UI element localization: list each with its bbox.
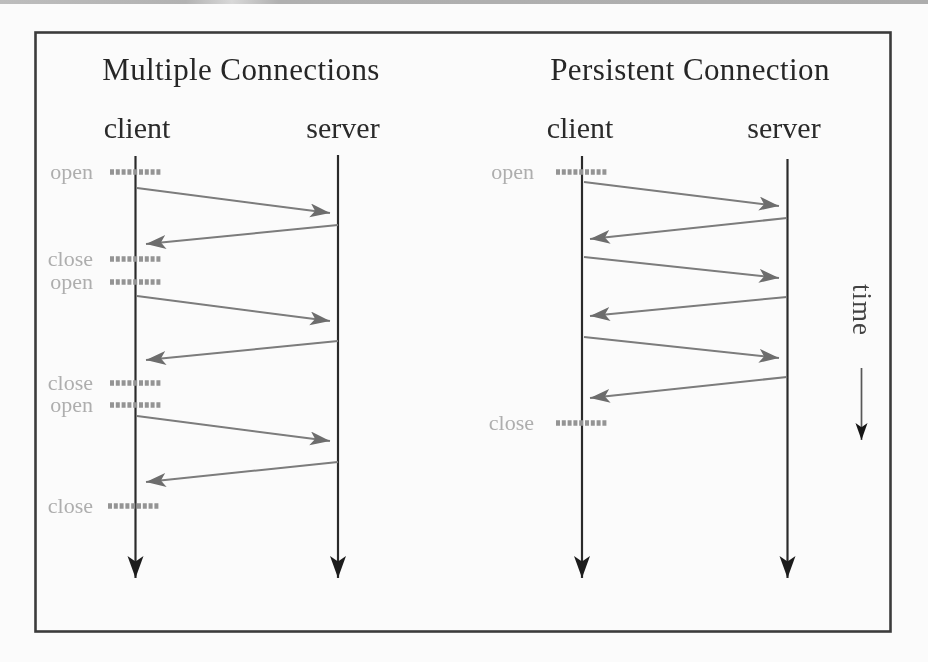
response-arrow <box>146 462 338 482</box>
response-arrow <box>590 218 787 239</box>
panel-title: Persistent Connection <box>550 52 830 87</box>
request-arrow <box>584 257 779 278</box>
response-arrow <box>590 297 787 316</box>
time-axis: time <box>847 284 877 440</box>
figure-page: Multiple Connections client server open … <box>0 0 928 662</box>
close-label: close <box>489 410 534 435</box>
panel-multiple-connections: Multiple Connections client server open … <box>48 52 380 578</box>
response-arrow <box>146 225 338 244</box>
panel-persistent-connection: Persistent Connection client server open <box>489 52 830 578</box>
request-arrow <box>137 188 330 213</box>
open-label: open <box>50 159 93 184</box>
server-label: server <box>306 111 379 144</box>
client-label: client <box>104 111 171 144</box>
server-label: server <box>747 111 820 144</box>
time-axis-label: time <box>847 284 877 336</box>
open-label: open <box>50 392 93 417</box>
client-label: client <box>547 111 614 144</box>
request-arrow <box>137 296 330 321</box>
response-arrow <box>146 341 338 360</box>
connections-diagram: Multiple Connections client server open … <box>0 0 928 662</box>
open-label: open <box>491 159 534 184</box>
response-arrow <box>590 377 787 398</box>
request-arrow <box>584 182 779 206</box>
request-arrow <box>584 337 779 358</box>
request-arrow <box>137 416 330 441</box>
panel-title: Multiple Connections <box>102 52 380 87</box>
open-label: open <box>50 269 93 294</box>
close-label: close <box>48 493 93 518</box>
close-label: close <box>48 246 93 271</box>
